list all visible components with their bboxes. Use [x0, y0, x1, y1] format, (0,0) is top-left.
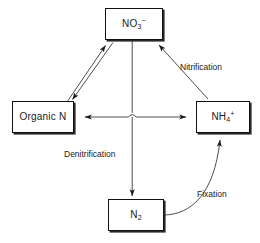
dinitrogen-node[interactable]: N2 [108, 199, 164, 231]
denitrification-label: Denitrification [64, 150, 116, 159]
ammonium-node[interactable]: NH4+ [196, 101, 250, 133]
edge-organicn-nitrate-up [66, 46, 106, 104]
dinitrogen-node-label: N2 [130, 210, 142, 220]
organic-nitrogen-node[interactable]: Organic N [12, 101, 74, 133]
edge-fixation [165, 140, 220, 215]
organic-nitrogen-node-label: Organic N [20, 112, 67, 122]
edge-nitrification [159, 45, 208, 99]
nitrogen-cycle-diagram: NO3− Organic N NH4+ N2 Nitrification Den… [0, 0, 260, 243]
edge-organicn-ammonium [85, 115, 186, 117]
edge-organicn-nitrate-down [73, 43, 114, 100]
ammonium-node-label: NH4+ [211, 112, 234, 122]
nitrate-node[interactable]: NO3− [105, 8, 163, 40]
fixation-label: Fixation [197, 190, 227, 199]
nitrification-label: Nitrification [180, 63, 222, 72]
nitrate-node-label: NO3− [122, 19, 146, 29]
